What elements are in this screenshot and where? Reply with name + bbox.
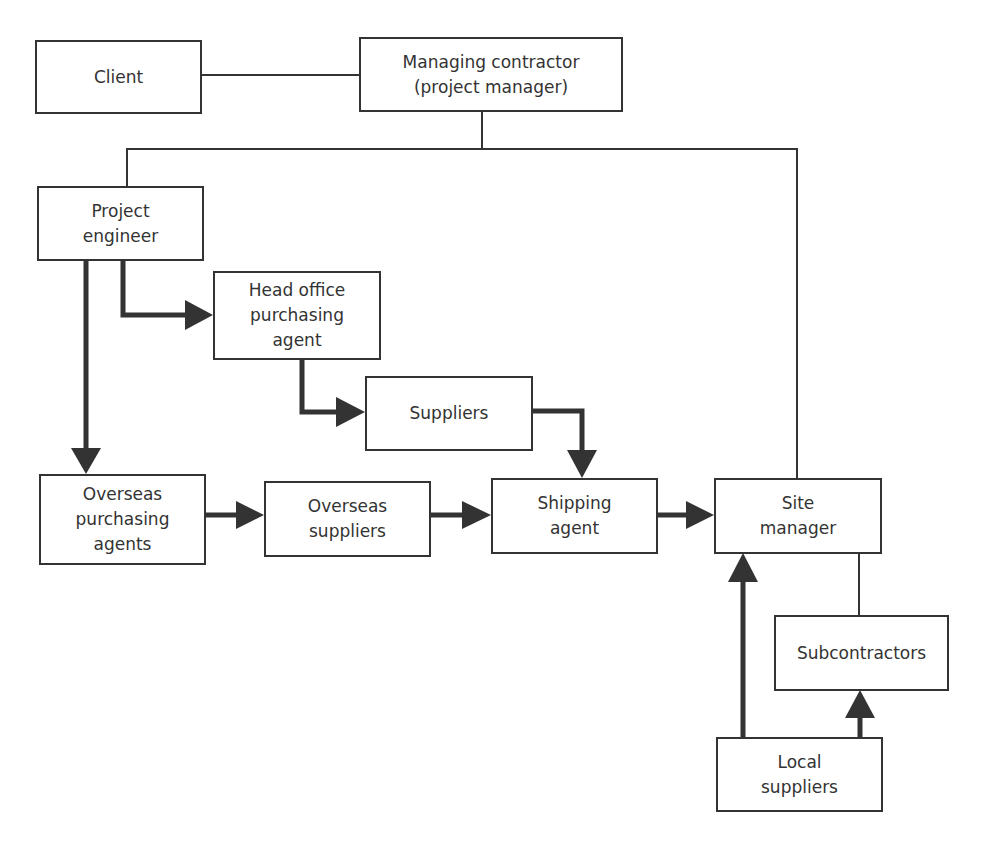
edge-project-engineer-head-office (123, 260, 188, 315)
node-client: Client (35, 40, 202, 114)
arrowhead-right-icon (336, 397, 365, 427)
node-label: Subcontractors (797, 641, 926, 666)
arrowhead-down-icon (71, 448, 101, 474)
arrowhead-right-icon (236, 501, 264, 529)
procurement-diagram: Client Managing contractor (project mana… (0, 0, 986, 843)
arrowhead-up-icon (845, 690, 875, 718)
node-label: Project engineer (83, 199, 158, 249)
node-label: Head office purchasing agent (249, 278, 346, 353)
arrowhead-right-icon (185, 300, 213, 330)
arrowhead-right-icon (462, 501, 491, 529)
node-label: Shipping agent (537, 491, 611, 541)
node-label: Client (94, 65, 143, 90)
node-label: Local suppliers (761, 750, 838, 800)
node-project-engineer: Project engineer (37, 186, 204, 261)
edge-head-office-suppliers (302, 359, 340, 412)
node-label: Managing contractor (project manager) (403, 50, 580, 100)
node-label: Overseas suppliers (308, 494, 387, 544)
edge-suppliers-shipping-agent (532, 411, 582, 452)
node-overseas-purchasing-agents: Overseas purchasing agents (39, 474, 206, 565)
node-head-office-purchasing-agent: Head office purchasing agent (213, 271, 381, 360)
node-label: Site manager (760, 491, 836, 541)
node-suppliers: Suppliers (365, 376, 533, 451)
node-local-suppliers: Local suppliers (716, 737, 883, 812)
node-label: Suppliers (410, 401, 489, 426)
node-managing-contractor: Managing contractor (project manager) (359, 37, 623, 112)
arrowhead-down-icon (567, 450, 597, 478)
node-label: Overseas purchasing agents (76, 482, 170, 557)
node-subcontractors: Subcontractors (774, 615, 949, 691)
arrowhead-up-icon (728, 553, 758, 582)
node-overseas-suppliers: Overseas suppliers (264, 481, 431, 557)
node-site-manager: Site manager (714, 478, 882, 554)
arrowhead-right-icon (686, 501, 714, 529)
node-shipping-agent: Shipping agent (491, 478, 658, 554)
